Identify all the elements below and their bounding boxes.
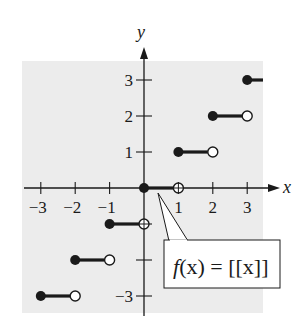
- x-axis-label: x: [282, 177, 291, 197]
- y-tick-label: 1: [125, 143, 134, 162]
- closed-dot-icon: [70, 255, 80, 265]
- step-function-chart: −3−2−1123321−3 f(x) = [[x]] y x: [0, 0, 305, 333]
- y-axis-label: y: [135, 22, 145, 42]
- x-tick-label: 1: [174, 198, 183, 217]
- open-dot-icon: [105, 255, 115, 265]
- open-dot-icon: [70, 291, 80, 301]
- x-tick-label: −1: [98, 198, 116, 217]
- closed-dot-icon: [173, 147, 183, 157]
- closed-dot-icon: [208, 111, 218, 121]
- y-tick-label: 2: [125, 107, 134, 126]
- x-tick-label: −3: [29, 198, 47, 217]
- y-axis-arrow-icon: [140, 47, 148, 59]
- y-tick-label: 3: [125, 71, 134, 90]
- y-tick-label: −3: [115, 287, 133, 306]
- x-tick-label: −2: [63, 198, 81, 217]
- x-axis-arrow-icon: [268, 184, 280, 192]
- closed-dot-icon: [105, 219, 115, 229]
- open-dot-icon: [242, 111, 252, 121]
- callout-label: f(x) = [[x]]: [173, 254, 269, 279]
- open-dot-icon: [208, 147, 218, 157]
- x-tick-label: 2: [209, 198, 218, 217]
- closed-dot-icon: [242, 75, 252, 85]
- closed-dot-icon: [139, 183, 149, 193]
- x-tick-label: 3: [243, 198, 252, 217]
- closed-dot-icon: [36, 291, 46, 301]
